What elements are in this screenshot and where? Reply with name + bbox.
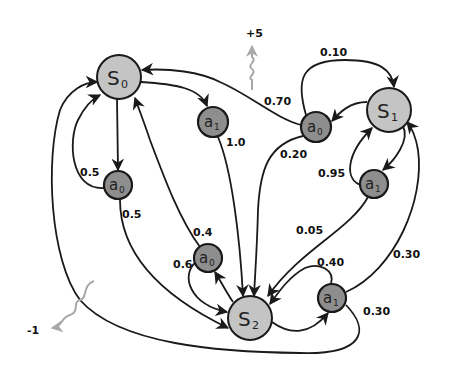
action-node-s2-a0: a 0	[194, 244, 222, 272]
prob-label: 0.95	[318, 167, 345, 180]
mdp-diagram: +5 -1 0.5 0.5 1.0 0.70 0.10 0.20 0.95 0.…	[0, 0, 451, 375]
edge-s1a1-to-s2	[268, 197, 368, 296]
svg-text:1: 1	[391, 111, 398, 124]
prob-label: 0.4	[193, 226, 213, 239]
svg-text:0: 0	[317, 127, 323, 137]
svg-text:a: a	[365, 175, 374, 193]
prob-label: 1.0	[226, 136, 246, 149]
edge-s0a1-to-s2	[218, 137, 243, 296]
edge-s1-to-s1a0	[332, 102, 367, 121]
svg-text:0: 0	[209, 258, 215, 268]
svg-text:a: a	[307, 118, 316, 136]
action-node-s1-a1: a 1	[360, 170, 388, 198]
svg-text:0: 0	[121, 78, 128, 91]
reward-label-plus5: +5	[246, 27, 263, 40]
rewards: +5 -1	[27, 27, 263, 337]
svg-text:1: 1	[333, 298, 339, 308]
reward-label-minus1: -1	[27, 324, 39, 337]
svg-text:S: S	[377, 99, 390, 123]
edge-s2a0-to-s0	[135, 98, 200, 247]
prob-label: 0.5	[122, 208, 142, 221]
reward-arrow-plus5	[250, 46, 253, 90]
svg-text:a: a	[199, 249, 208, 267]
action-node-s2-a1: a 1	[318, 284, 346, 312]
svg-text:a: a	[204, 113, 213, 131]
action-node-s1-a0: a 0	[301, 112, 331, 142]
state-node-s1: S 1	[367, 88, 411, 132]
svg-text:S: S	[107, 66, 120, 90]
prob-label: 0.70	[264, 95, 291, 108]
svg-text:2: 2	[252, 319, 259, 332]
svg-text:a: a	[109, 176, 118, 194]
prob-label: 0.10	[320, 46, 347, 59]
svg-text:0: 0	[119, 185, 125, 195]
prob-label: 0.5	[80, 166, 100, 179]
svg-text:1: 1	[375, 184, 381, 194]
edge-s2-to-s2a0	[215, 272, 233, 302]
prob-label: 0.30	[393, 248, 420, 261]
edge-s0-to-s0a1	[141, 82, 207, 106]
svg-text:S: S	[238, 307, 251, 331]
prob-label: 0.20	[280, 148, 307, 161]
prob-label: 0.05	[296, 224, 323, 237]
edge-s0-to-s0a0	[117, 99, 118, 170]
state-node-s2: S 2	[228, 296, 272, 340]
prob-label: 0.40	[317, 256, 344, 269]
action-node-s0-a1: a 1	[198, 107, 228, 137]
edge-s2-to-s2a1	[272, 313, 328, 331]
prob-label: 0.30	[363, 305, 390, 318]
action-node-s0-a0: a 0	[104, 171, 132, 199]
prob-label: 0.6	[173, 258, 193, 271]
state-node-s0: S 0	[97, 55, 141, 99]
svg-text:1: 1	[214, 122, 220, 132]
svg-text:a: a	[323, 289, 332, 307]
